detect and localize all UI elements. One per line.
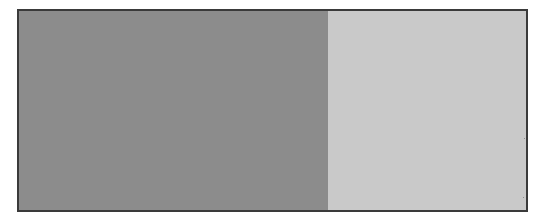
tiling-pattern-frame (17, 9, 528, 212)
figure-root (0, 0, 545, 221)
tiling-canvas (19, 11, 526, 210)
